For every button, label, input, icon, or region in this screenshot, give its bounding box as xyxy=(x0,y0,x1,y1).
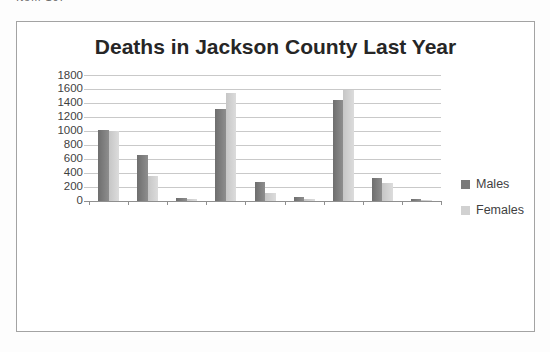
y-tick-label: 1200 xyxy=(39,111,83,123)
bar-females-8 xyxy=(421,200,432,201)
chart-frame: Deaths in Jackson County Last Year 02004… xyxy=(16,21,535,332)
grid-line xyxy=(84,89,441,90)
chart-title: Deaths in Jackson County Last Year xyxy=(17,35,534,59)
grid-line xyxy=(84,103,441,104)
y-tick-label: 600 xyxy=(39,153,83,165)
legend-item-males: Males xyxy=(461,177,524,191)
bar-males-3 xyxy=(215,109,226,201)
bar-females-7 xyxy=(382,183,393,201)
x-tick xyxy=(245,201,246,205)
page: Item 10. Deaths in Jackson County Last Y… xyxy=(0,0,550,352)
legend-swatch-icon xyxy=(461,206,470,215)
legend-swatch-icon xyxy=(461,180,470,189)
bar-females-5 xyxy=(304,199,315,201)
bar-females-4 xyxy=(265,193,276,201)
y-tick-label: 800 xyxy=(39,139,83,151)
bar-females-2 xyxy=(187,199,198,201)
bar-males-8 xyxy=(411,199,422,201)
bar-males-2 xyxy=(176,198,187,201)
plot-area xyxy=(89,75,441,201)
x-tick xyxy=(167,201,168,205)
legend-item-females: Females xyxy=(461,203,524,217)
bar-females-0 xyxy=(109,131,120,201)
y-tick-label: 1000 xyxy=(39,125,83,137)
x-tick xyxy=(363,201,364,205)
legend: MalesFemales xyxy=(461,177,524,217)
grid-line xyxy=(84,131,441,132)
legend-label: Females xyxy=(476,203,524,217)
bar-males-5 xyxy=(294,197,305,201)
x-tick xyxy=(128,201,129,205)
y-tick-label: 1400 xyxy=(39,97,83,109)
grid-line xyxy=(84,117,441,118)
corner-note: Item 10. xyxy=(16,0,64,3)
x-tick xyxy=(324,201,325,205)
grid-line xyxy=(84,75,441,76)
x-tick xyxy=(402,201,403,205)
y-tick-label: 1800 xyxy=(39,70,83,82)
x-tick xyxy=(441,201,442,205)
bar-males-0 xyxy=(98,130,109,201)
x-tick xyxy=(89,201,90,205)
legend-label: Males xyxy=(476,177,509,191)
x-tick xyxy=(285,201,286,205)
y-tick-label: 400 xyxy=(39,167,83,179)
y-tick-label: 0 xyxy=(39,195,83,207)
bar-females-6 xyxy=(343,90,354,201)
bar-males-7 xyxy=(372,178,383,201)
bar-males-4 xyxy=(255,182,266,201)
bar-females-1 xyxy=(148,176,159,201)
grid-line xyxy=(84,145,441,146)
bar-females-3 xyxy=(226,93,237,201)
x-tick xyxy=(206,201,207,205)
y-tick-label: 1600 xyxy=(39,83,83,95)
bar-males-1 xyxy=(137,155,148,201)
y-tick-label: 200 xyxy=(39,181,83,193)
bar-males-6 xyxy=(333,100,344,201)
